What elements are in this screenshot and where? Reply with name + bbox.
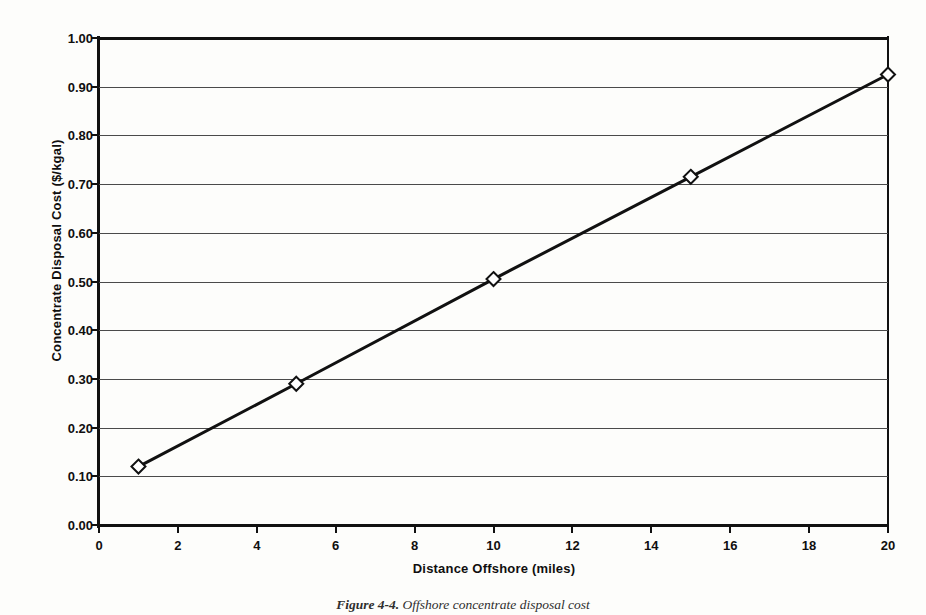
y-tick-label: 0.90 xyxy=(68,79,93,94)
data-point-marker xyxy=(881,68,895,82)
figure-container: Concentrate Disposal Cost ($/kgal) 0.000… xyxy=(0,0,926,615)
x-tick-label: 18 xyxy=(802,538,816,553)
y-tick-label: 0.30 xyxy=(68,371,93,386)
data-point-marker xyxy=(487,272,501,286)
x-tick-mark xyxy=(177,525,179,533)
x-tick-label: 2 xyxy=(174,538,181,553)
x-tick-label: 6 xyxy=(332,538,339,553)
series-line xyxy=(138,75,888,467)
x-axis-title: Distance Offshore (miles) xyxy=(99,561,889,576)
x-tick-mark xyxy=(808,525,810,533)
x-tick-label: 8 xyxy=(411,538,418,553)
x-tick-label: 4 xyxy=(253,538,260,553)
x-tick-mark xyxy=(335,525,337,533)
y-tick-label: 0.60 xyxy=(68,225,93,240)
figure-caption-text: Offshore concentrate disposal cost xyxy=(403,597,590,612)
x-tick-mark xyxy=(650,525,652,533)
x-tick-label: 14 xyxy=(644,538,658,553)
x-tick-label: 0 xyxy=(95,538,102,553)
figure-caption: Figure 4-4. Offshore concentrate disposa… xyxy=(0,597,926,613)
data-point-marker xyxy=(289,377,303,391)
x-tick-mark xyxy=(256,525,258,533)
x-tick-mark xyxy=(414,525,416,533)
y-tick-label: 0.40 xyxy=(68,323,93,338)
x-tick-mark xyxy=(729,525,731,533)
y-tick-label: 0.50 xyxy=(68,274,93,289)
y-tick-label: 0.80 xyxy=(68,128,93,143)
data-series xyxy=(99,38,888,525)
data-point-marker xyxy=(684,170,698,184)
x-tick-label: 16 xyxy=(723,538,737,553)
x-tick-label: 20 xyxy=(881,538,895,553)
x-tick-mark xyxy=(98,525,100,533)
x-tick-mark xyxy=(493,525,495,533)
x-tick-label: 10 xyxy=(486,538,500,553)
y-tick-label: 0.70 xyxy=(68,177,93,192)
x-tick-mark xyxy=(887,525,889,533)
y-axis-title: Concentrate Disposal Cost ($/kgal) xyxy=(49,41,64,461)
y-tick-label: 0.10 xyxy=(68,469,93,484)
y-tick-label: 1.00 xyxy=(68,31,93,46)
plot-area: 0.000.100.200.300.400.500.600.700.800.90… xyxy=(99,38,888,525)
y-tick-label: 0.00 xyxy=(68,518,93,533)
data-point-marker xyxy=(131,460,145,474)
figure-caption-number: Figure 4-4. xyxy=(336,597,399,612)
x-tick-label: 12 xyxy=(565,538,579,553)
x-tick-mark xyxy=(571,525,573,533)
y-tick-label: 0.20 xyxy=(68,420,93,435)
